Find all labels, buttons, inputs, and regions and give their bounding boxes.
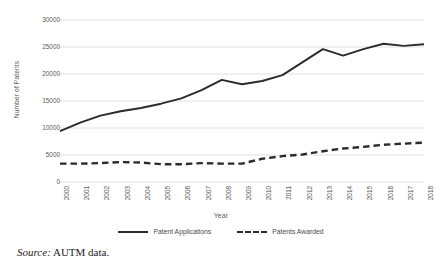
x-tick-label: 2016 <box>387 186 394 200</box>
legend-entry-0[interactable]: Patent Applications <box>118 228 211 235</box>
chart-legend: Patent ApplicationsPatents Awarded <box>0 228 442 235</box>
x-tick-label: 2004 <box>144 186 151 200</box>
x-axis-title: Year <box>0 212 442 219</box>
x-tick-label: 2013 <box>326 186 333 200</box>
x-tick-label: 2001 <box>83 186 90 200</box>
source-caption: Source: AUTM data. <box>17 246 109 258</box>
legend-label: Patents Awarded <box>272 228 323 235</box>
x-tick-label: 2002 <box>103 186 110 200</box>
x-tick-label: 2017 <box>407 186 414 200</box>
x-tick-label: 2018 <box>427 186 434 200</box>
source-text: AUTM data. <box>53 246 109 258</box>
x-tick-label: 2008 <box>225 186 232 200</box>
x-tick-label: 2005 <box>164 186 171 200</box>
x-tick-label: 2003 <box>124 186 131 200</box>
x-tick-label: 2009 <box>245 186 252 200</box>
legend-label: Patent Applications <box>153 228 211 235</box>
x-tick-label: 2011 <box>285 186 292 200</box>
x-tick-label: 2014 <box>346 186 353 200</box>
x-tick-label: 2007 <box>205 186 212 200</box>
x-tick-label: 2012 <box>306 186 313 200</box>
x-tick-label: 2000 <box>63 186 70 200</box>
x-tick-label: 2010 <box>265 186 272 200</box>
chart-plot-area: Number of Patents 3000025000200001500010… <box>0 0 442 232</box>
figure-container: Number of Patents 3000025000200001500010… <box>0 0 442 271</box>
x-axis-tick-labels: 2000200120022003200420052006200720082009… <box>0 0 442 232</box>
source-label: Source: <box>17 246 51 258</box>
legend-swatch-icon <box>237 231 267 233</box>
legend-swatch-icon <box>118 231 148 233</box>
legend-entry-1[interactable]: Patents Awarded <box>237 228 323 235</box>
x-tick-label: 2015 <box>366 186 373 200</box>
x-tick-label: 2006 <box>184 186 191 200</box>
